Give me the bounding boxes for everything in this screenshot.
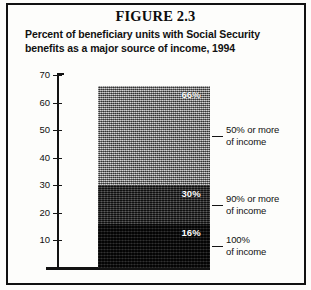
bar-segment-value-label: 30% [181,188,201,199]
callout-leader-line-2 [212,205,223,206]
callout-line-2: of income [226,205,304,217]
y-tick-label-50: 50 [22,124,50,135]
bar-segment-value-label: 66% [181,89,201,100]
callout-line-1: 90% or more [226,193,304,205]
callout-label-3: 100%of income [226,234,304,258]
callout-line-1: 100% [226,234,304,246]
bar-segment-value-label: 16% [181,227,201,238]
y-tick-40 [53,158,62,159]
y-tick-60 [53,103,62,104]
stacked-bar: 66%30%16% [98,0,210,290]
callout-label-1: 50% or moreof income [226,124,304,148]
y-tick-label-10: 10 [22,234,50,245]
y-tick-label-30: 30 [22,179,50,190]
callout-line-2: of income [226,136,304,148]
y-tick-label-20: 20 [22,207,50,218]
y-tick-30 [53,185,62,186]
chart-plot-area: 70605040302010 66%30%16% 50% or moreof i… [0,0,311,290]
callout-line-2: of income [226,246,304,258]
y-tick-10 [53,240,62,241]
y-tick-label-40: 40 [22,152,50,163]
bar-segment-30pct: 30% [98,185,210,224]
y-tick-label-60: 60 [22,97,50,108]
callout-leader-line-3 [212,246,223,247]
y-tick-50 [53,130,62,131]
callout-leader-line-1 [212,136,223,137]
y-tick-20 [53,213,62,214]
bar-segment-16pct: 16% [98,224,210,268]
figure-container: FIGURE 2.3 Percent of beneficiary units … [0,0,311,290]
y-tick-70 [53,75,62,76]
callout-label-2: 90% or moreof income [226,193,304,217]
callout-line-1: 50% or more [226,124,304,136]
y-tick-label-70: 70 [22,69,50,80]
bar-segment-66pct: 66% [98,86,210,185]
